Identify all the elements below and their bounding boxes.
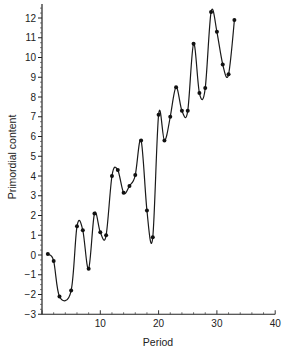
data-point [46, 252, 50, 256]
data-point [157, 113, 161, 117]
y-tick-label: −3 [25, 309, 37, 320]
data-point [232, 18, 236, 22]
chart: −3−2−10123456789101112 10203040 Period P… [0, 0, 289, 353]
data-point [162, 138, 166, 142]
data-point [186, 109, 190, 113]
y-tick-label: 11 [26, 32, 37, 43]
data-point [227, 72, 231, 76]
data-point [209, 10, 213, 14]
y-tick-label: 9 [30, 72, 36, 83]
data-point [168, 115, 172, 119]
data-point [145, 209, 149, 213]
data-point [75, 224, 79, 228]
data-point [197, 91, 201, 95]
data-point [192, 42, 196, 46]
y-tick-label: 5 [30, 151, 36, 162]
data-point [104, 233, 108, 237]
y-tick-label: 10 [25, 52, 37, 63]
y-tick-label: −1 [25, 269, 37, 280]
x-axis: 10203040 [42, 310, 281, 329]
y-tick-label: 7 [30, 111, 36, 122]
data-point [98, 230, 102, 234]
y-tick-label: 12 [25, 13, 37, 24]
data-point [87, 267, 91, 271]
series-line [48, 9, 235, 301]
y-tick-label: −2 [25, 289, 37, 300]
x-tick-label: 40 [270, 318, 282, 329]
data-point [69, 289, 73, 293]
data-point [221, 62, 225, 66]
y-tick-label: 1 [30, 230, 36, 241]
y-tick-label: 3 [30, 190, 36, 201]
data-point [180, 109, 184, 113]
data-point [215, 30, 219, 34]
x-tick-label: 20 [153, 318, 165, 329]
data-point [122, 191, 126, 195]
data-point [139, 138, 143, 142]
x-tick-label: 30 [211, 318, 223, 329]
data-point [151, 235, 155, 239]
y-axis-title: Primordial content [6, 115, 18, 200]
y-axis: −3−2−10123456789101112 [25, 4, 42, 320]
x-axis-title: Period [143, 336, 174, 348]
data-point [92, 212, 96, 216]
data-point [57, 294, 61, 298]
data-point [203, 86, 207, 90]
data-point [174, 85, 178, 89]
data-point [116, 168, 120, 172]
y-tick-label: 2 [30, 210, 36, 221]
data-point [52, 259, 56, 263]
data-point [110, 174, 114, 178]
y-tick-label: 4 [30, 171, 36, 182]
data-point [127, 184, 131, 188]
data-point [81, 228, 85, 232]
y-tick-label: 6 [30, 131, 36, 142]
y-tick-label: 0 [30, 250, 36, 261]
data-point [133, 173, 137, 177]
y-tick-label: 8 [30, 92, 36, 103]
x-tick-label: 10 [95, 318, 107, 329]
